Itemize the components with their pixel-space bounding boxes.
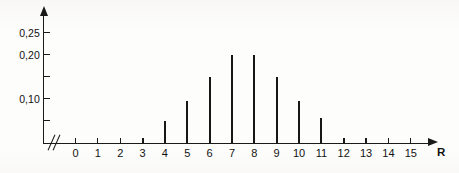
data-spike	[186, 101, 188, 143]
x-axis-title: R	[437, 146, 445, 158]
data-spike	[231, 55, 233, 143]
data-series-spikes	[0, 0, 459, 173]
data-spike	[253, 55, 255, 143]
data-spike	[276, 77, 278, 143]
chart-figure: 0,250,200,10 0123456789101112131415 R	[0, 0, 459, 173]
data-spike	[209, 77, 211, 143]
data-spike	[142, 138, 144, 142]
data-spike	[164, 121, 166, 143]
data-spike	[320, 118, 322, 142]
data-spike	[298, 101, 300, 143]
data-spike	[343, 138, 345, 142]
